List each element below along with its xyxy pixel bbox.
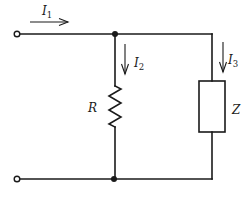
- current-i2-arrow-icon: [122, 44, 129, 74]
- resistor-branch: [109, 34, 121, 179]
- impedance-label: Z: [231, 103, 241, 117]
- current-i2-label: I2: [133, 56, 144, 72]
- resistor-label: R: [87, 101, 97, 115]
- current-i3-label: I3: [227, 53, 238, 69]
- junction-bottom-dot: [111, 176, 117, 182]
- current-i3-arrow-icon: [220, 42, 227, 72]
- impedance-box-icon: [199, 81, 225, 132]
- circuit-diagram: I1 I2 I3 R Z: [0, 0, 251, 197]
- terminal-top: [14, 31, 20, 37]
- impedance-branch: [199, 34, 225, 179]
- terminal-bottom: [14, 176, 20, 182]
- junction-top-dot: [112, 31, 118, 37]
- current-i1-label: I1: [41, 4, 52, 20]
- resistor-icon: [109, 86, 121, 127]
